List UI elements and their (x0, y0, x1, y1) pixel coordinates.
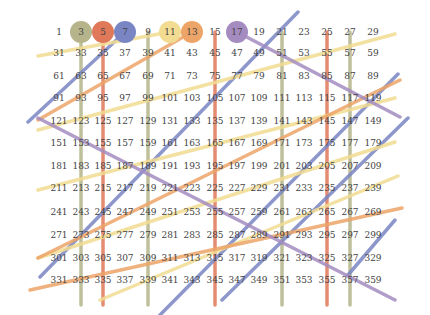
number-cell: 171 (273, 138, 290, 148)
number-cell: 7 (122, 27, 128, 37)
number-cell: 161 (161, 138, 178, 148)
number-cell: 357 (341, 275, 358, 285)
number-cell: 249 (139, 207, 156, 217)
number-cell: 1 (56, 27, 62, 37)
number-cell: 333 (72, 275, 89, 285)
number-cell: 95 (97, 93, 109, 103)
number-cell: 219 (139, 183, 156, 193)
number-cell: 309 (139, 253, 156, 263)
number-cell: 209 (364, 161, 381, 171)
number-cell: 287 (228, 230, 245, 240)
number-cell: 215 (94, 183, 111, 193)
number-cell: 103 (183, 93, 200, 103)
number-cell: 243 (72, 207, 89, 217)
number-cell: 225 (206, 183, 223, 193)
number-cell: 17 (231, 27, 243, 37)
number-cell: 341 (161, 275, 178, 285)
number-cell: 197 (228, 161, 245, 171)
number-cell: 293 (295, 230, 312, 240)
number-cell: 167 (228, 138, 245, 148)
number-cell: 165 (206, 138, 223, 148)
number-cell: 319 (250, 253, 267, 263)
number-cell: 129 (139, 116, 156, 126)
number-cell: 29 (367, 27, 379, 37)
number-cell: 265 (318, 207, 335, 217)
number-cell: 305 (94, 253, 111, 263)
number-cell: 353 (295, 275, 312, 285)
number-cell: 269 (364, 207, 381, 217)
number-cell: 241 (50, 207, 67, 217)
number-cell: 235 (318, 183, 335, 193)
number-cell: 141 (273, 116, 290, 126)
number-cell: 181 (50, 161, 67, 171)
number-cell: 253 (183, 207, 200, 217)
number-cell: 191 (161, 161, 178, 171)
number-cell: 79 (253, 71, 265, 81)
number-cell: 193 (183, 161, 200, 171)
number-cell: 325 (318, 253, 335, 263)
number-cell: 11 (164, 27, 175, 37)
number-cell: 351 (273, 275, 290, 285)
number-cell: 121 (50, 116, 67, 126)
number-cell: 109 (250, 93, 267, 103)
number-cell: 9 (145, 27, 151, 37)
number-cell: 359 (364, 275, 381, 285)
number-cell: 93 (75, 93, 87, 103)
multiples-of-7-line (348, 220, 395, 275)
number-cell: 179 (364, 138, 381, 148)
number-cell: 195 (206, 161, 223, 171)
number-cell: 41 (164, 48, 175, 58)
number-cell: 251 (161, 207, 178, 217)
number-cell: 223 (183, 183, 200, 193)
number-cell: 323 (295, 253, 312, 263)
number-cell: 27 (344, 27, 356, 37)
number-cell: 85 (321, 71, 333, 81)
number-cell: 81 (276, 71, 287, 81)
number-cell: 199 (250, 161, 267, 171)
number-cell: 291 (273, 230, 290, 240)
number-cell: 175 (318, 138, 335, 148)
number-cell: 307 (116, 253, 133, 263)
number-cell: 63 (75, 71, 87, 81)
number-cell: 59 (367, 48, 379, 58)
number-cell: 289 (250, 230, 267, 240)
number-cell: 153 (72, 138, 89, 148)
number-cell: 143 (295, 116, 312, 126)
number-cell: 127 (116, 116, 133, 126)
number-cell: 67 (119, 71, 131, 81)
number-cell: 97 (119, 93, 131, 103)
number-cell: 263 (295, 207, 312, 217)
number-cell: 151 (50, 138, 67, 148)
number-cell: 69 (142, 71, 154, 81)
prime-circles (70, 21, 248, 43)
number-cell: 207 (341, 161, 358, 171)
number-cell: 23 (298, 27, 310, 37)
number-cell: 75 (209, 71, 221, 81)
number-cell: 283 (183, 230, 200, 240)
number-cell: 233 (295, 183, 312, 193)
number-cell: 237 (341, 183, 358, 193)
number-cell: 303 (72, 253, 89, 263)
number-cell: 19 (253, 27, 265, 37)
number-cell: 279 (139, 230, 156, 240)
number-cell: 285 (206, 230, 223, 240)
number-cell: 123 (72, 116, 89, 126)
number-cell: 65 (97, 71, 109, 81)
number-cell: 229 (250, 183, 267, 193)
number-cell: 35 (97, 48, 109, 58)
number-cell: 89 (367, 71, 379, 81)
number-cell: 55 (321, 48, 333, 58)
number-cell: 345 (206, 275, 223, 285)
number-cell: 355 (318, 275, 335, 285)
number-cell: 275 (94, 230, 111, 240)
number-cell: 299 (364, 230, 381, 240)
number-cell: 25 (321, 27, 333, 37)
number-cell: 221 (161, 183, 178, 193)
number-cell: 337 (116, 275, 133, 285)
number-cell: 117 (341, 93, 358, 103)
number-cell: 5 (100, 27, 106, 37)
number-cell: 47 (231, 48, 243, 58)
number-cell: 125 (94, 116, 111, 126)
number-cell: 173 (295, 138, 312, 148)
number-cell: 339 (139, 275, 156, 285)
